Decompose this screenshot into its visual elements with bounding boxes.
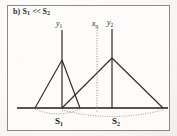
triangle-s2 [62,29,163,108]
triangle-s1-left-edge [35,60,62,108]
triangle-s2-left-edge [62,58,112,108]
label-y1-subscript: 1 [60,23,63,29]
label-y1: y1 [56,20,62,29]
span-label-s1-subscript: 1 [60,121,63,127]
caption-left-subscript: 1 [27,10,30,16]
label-y2: y2 [107,19,113,28]
span-arc-s1 [35,109,80,114]
label-y2-subscript: 2 [111,22,114,28]
figure-drawing [0,0,177,136]
caption-relation: << [32,7,40,16]
span-label-s2: S2 [112,117,120,127]
span-label-s1: S1 [55,117,63,127]
label-xq: xq [92,20,98,29]
triangle-s2-right-edge [112,58,163,108]
triangle-s1-right-edge [62,60,80,108]
label-xq-subscript: q [96,23,99,29]
span-label-s2-subscript: 2 [117,121,120,127]
caption-part-label: b) [13,7,20,16]
figure-caption: b) S1 << S2 [13,8,50,16]
caption-right-subscript: 2 [47,10,50,16]
figure-root: b) S1 << S2 y1 xq y2 S1 S2 [0,0,177,136]
